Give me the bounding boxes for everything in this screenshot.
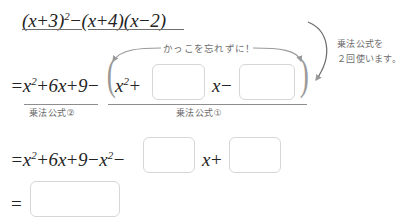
note-side-line1: 乗法公式を <box>337 38 384 50</box>
underline-product-term <box>88 29 184 30</box>
line2-inner-first-term: x2+ <box>115 76 141 95</box>
underline-square-term <box>22 29 82 30</box>
arrow-to-open-paren <box>113 48 161 61</box>
line3-left-side: =x2+6x+9−x2− <box>11 150 125 169</box>
answer-box-line3-1[interactable] <box>143 137 195 173</box>
note-side-line2: ２回使います。 <box>337 53 401 65</box>
line2-left-side: =x2+6x+9− <box>11 76 99 95</box>
line2-inner-plus: + <box>129 75 141 96</box>
label-formula-one: 乗法公式① <box>176 107 222 119</box>
answer-box-line2-2[interactable] <box>239 64 295 100</box>
arrow-to-close-paren <box>253 48 301 61</box>
line2-exponent: 2 <box>31 75 37 87</box>
line3-minus: − <box>113 149 125 170</box>
answer-box-line3-2[interactable] <box>229 137 281 173</box>
underline-formula-two <box>24 104 98 105</box>
label-formula-two: 乗法公式② <box>29 107 75 119</box>
note-paren-reminder: かっこを忘れずに！ <box>163 43 256 56</box>
line4-equals: = <box>11 194 22 213</box>
math-worksheet: (x+3)2−(x+4)(x−2) =x2+6x+9− ( x2+ x− ) 乗… <box>0 0 409 223</box>
answer-box-line4-1[interactable] <box>30 181 120 217</box>
line2-inner-middle: x− <box>212 76 232 95</box>
arrow-formula-callout <box>308 22 327 80</box>
problem-exponent: 2 <box>64 10 70 22</box>
problem-expression: (x+3)2−(x+4)(x−2) <box>22 11 166 30</box>
answer-box-line2-1[interactable] <box>152 64 205 100</box>
close-paren-large: ) <box>300 53 309 97</box>
line3-middle-term: x+ <box>202 150 222 169</box>
line3-exponent-1: 2 <box>31 149 37 161</box>
underline-formula-one <box>108 104 307 105</box>
